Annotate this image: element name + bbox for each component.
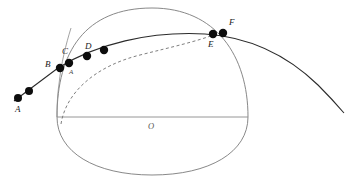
dashed-arc bbox=[61, 35, 213, 124]
point-b-label: B bbox=[45, 59, 51, 69]
point-a-label: A bbox=[14, 104, 21, 114]
point-d-label: D bbox=[84, 41, 92, 51]
point-e-label: E bbox=[207, 39, 214, 49]
point-a bbox=[14, 94, 22, 102]
point-e bbox=[209, 30, 217, 38]
intersection-label-a: A bbox=[68, 68, 74, 76]
point-d2 bbox=[100, 46, 108, 54]
point-a2 bbox=[25, 87, 33, 95]
point-b bbox=[56, 64, 64, 72]
oval-center-label: O bbox=[148, 121, 154, 131]
point-markers-group: ABCDEF bbox=[14, 17, 235, 114]
figure-root: ABCDEF A O bbox=[0, 0, 363, 192]
point-f-label: F bbox=[228, 17, 235, 27]
point-c bbox=[65, 59, 73, 67]
point-d bbox=[83, 52, 91, 60]
point-f bbox=[219, 29, 227, 37]
point-c-label: C bbox=[62, 46, 69, 56]
geometry-diagram: ABCDEF A O bbox=[0, 0, 363, 192]
